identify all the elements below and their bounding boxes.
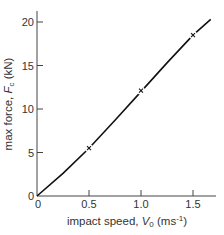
x-tick-label: 0	[35, 198, 41, 210]
y-tick-label: 5	[28, 147, 34, 159]
x-tick-label: 0.5	[81, 198, 96, 210]
x-tick-label: 1.5	[185, 198, 200, 210]
y-tick-label: 20	[22, 16, 34, 28]
x-axis-title: impact speed, V0 (ms-1)	[67, 214, 187, 229]
y-ticks: 05101520	[22, 16, 43, 202]
x-tick-label: 1.0	[133, 198, 148, 210]
y-tick-label: 10	[22, 103, 34, 115]
y-tick-label: 0	[28, 190, 34, 202]
data-curve	[37, 19, 211, 196]
y-axis-title: max force, Fc (kN)	[2, 57, 16, 150]
y-tick-label: 15	[22, 60, 34, 72]
x-ticks: 00.51.01.5	[35, 190, 201, 210]
plot-area	[37, 19, 211, 196]
chart: 05101520 00.51.01.5 impact speed, V0 (ms…	[0, 0, 224, 235]
